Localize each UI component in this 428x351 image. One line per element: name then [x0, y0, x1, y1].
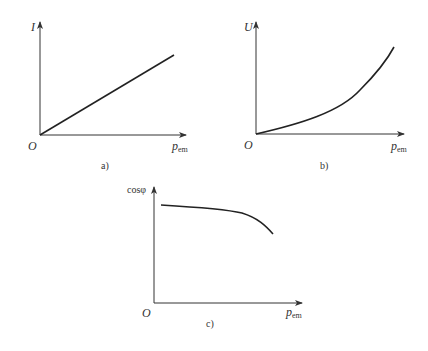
power-factor-curve-c — [161, 205, 273, 234]
caption-b: b) — [320, 160, 328, 172]
voltage-curve-b — [256, 47, 394, 134]
y-label-a: I — [30, 20, 36, 34]
x-label-b: pem — [390, 139, 408, 154]
y-label-b: U — [244, 20, 254, 34]
caption-c: c) — [206, 318, 214, 330]
origin-label-a: O — [28, 139, 37, 153]
y-label-c: cosφ — [127, 184, 146, 195]
x-label-c: pem — [285, 305, 303, 320]
panel-a: I O pem a) — [28, 20, 189, 172]
x-label-a: pem — [171, 139, 189, 154]
origin-label-c: O — [142, 306, 151, 320]
figure-canvas: I O pem a) U O pem b) cosφ O pem c) — [0, 0, 428, 351]
caption-a: a) — [101, 160, 109, 172]
panel-c: cosφ O pem c) — [127, 184, 303, 330]
panel-b: U O pem b) — [244, 20, 408, 172]
current-line-a — [40, 55, 174, 135]
origin-label-b: O — [244, 138, 253, 152]
